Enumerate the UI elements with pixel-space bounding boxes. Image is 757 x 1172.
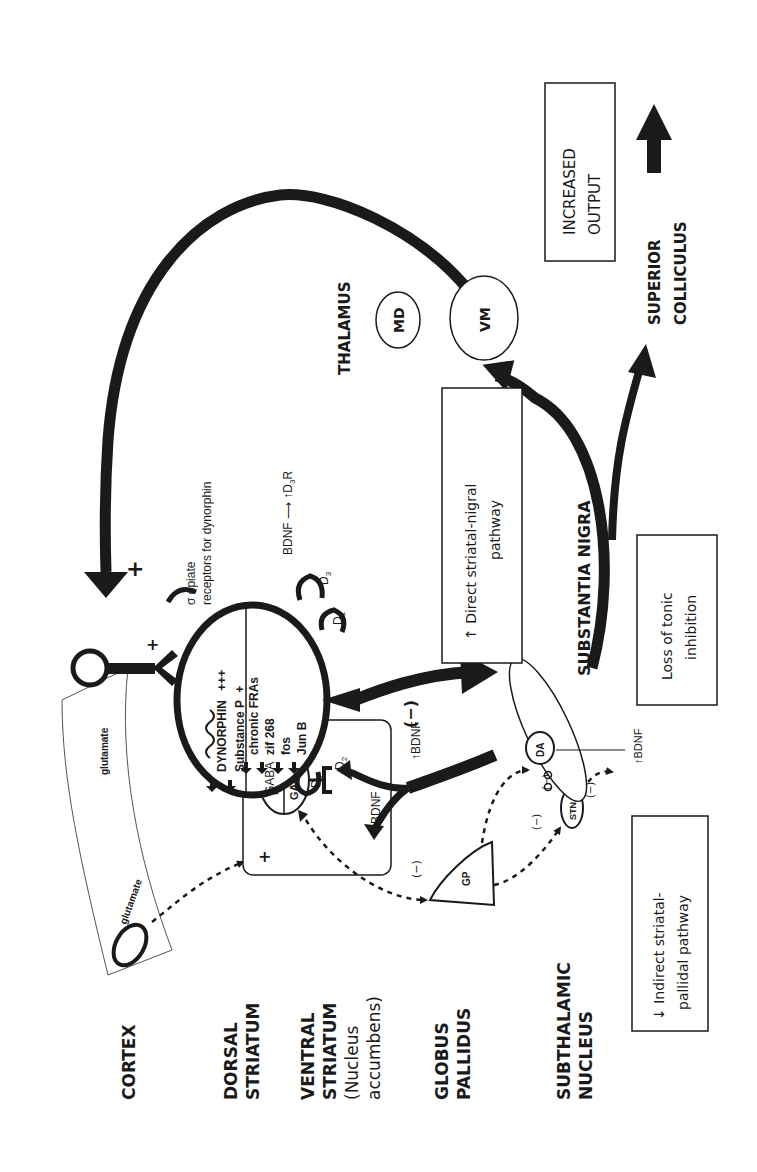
label-sc-1: SUPERIOR — [646, 239, 664, 325]
striatum-plus: + — [258, 847, 271, 866]
loop-arrowhead — [84, 572, 128, 598]
fra-fos: fos — [279, 737, 293, 755]
gp-label: GP — [461, 871, 472, 886]
direct-inhibit-label: (−) — [401, 700, 420, 728]
terminal-plus: + — [146, 635, 159, 654]
sn-bdnf-label: ↑BDNF — [632, 728, 644, 764]
sigma-label-1: σ opiate — [184, 561, 198, 605]
thalamocortical-loop: + — [84, 195, 470, 598]
box-direct-pathway: ↑ Direct striatal-nigral pathway — [442, 388, 522, 663]
substance-p-label: Substance P + — [233, 686, 247, 772]
svg-text:inhibition: inhibition — [683, 595, 699, 660]
bdnf-d3r-label: BDNF ⟶ ↑D3R — [281, 471, 297, 555]
loop-plus: + — [126, 556, 144, 581]
label-dorsal-striatum-2: STRIATUM — [243, 1003, 263, 1100]
gp-inhibit: (−) — [410, 860, 423, 878]
superior-colliculus: SUPERIOR COLLICULUS — [646, 221, 690, 325]
svg-text:OUTPUT: OUTPUT — [586, 173, 604, 235]
label-subthalamic-2: NUCLEUS — [576, 1011, 596, 1100]
sigma-label-2: receptors for dynorphin — [200, 482, 214, 605]
label-ventral-striatum-3: (Nucleus — [342, 1026, 362, 1100]
gp-to-sn-dotted — [482, 770, 528, 843]
label-subthalamic-1: SUBTHALAMIC — [554, 962, 574, 1100]
region-labels: CORTEX DORSAL STRIATUM VENTRAL STRIATUM … — [119, 962, 596, 1100]
label-sc-2: COLLICULUS — [672, 221, 690, 325]
svg-text:Loss of tonic: Loss of tonic — [659, 592, 675, 680]
label-globus-pallidus-1: GLOBUS — [432, 1022, 452, 1100]
md-label: MD — [391, 307, 407, 333]
stn-inhibit-1: (−) — [531, 814, 542, 830]
svg-text:INCREASED: INCREASED — [561, 148, 579, 235]
gp-to-stn-dotted — [494, 828, 560, 885]
d1-upper-label: D1 — [331, 611, 347, 625]
label-ventral-striatum-2: STRIATUM — [320, 1003, 340, 1100]
label-ventral-striatum-1: VENTRAL — [298, 1012, 318, 1100]
da-label: DA — [535, 743, 546, 757]
box-loss-of-tonic-inhibition: Loss of tonic inhibition — [637, 535, 717, 705]
basal-ganglia-diagram: CORTEX DORSAL STRIATUM VENTRAL STRIATUM … — [0, 0, 757, 1172]
label-thalamus: THALAMUS — [336, 282, 354, 375]
glutamate-label-2: glutamate — [99, 727, 110, 775]
increased-output-arrow-icon — [636, 104, 672, 173]
svg-text:↓ Indirect striatal-: ↓ Indirect striatal- — [651, 892, 667, 1020]
dynorphin-label: DYNORPHIN +++ — [215, 670, 229, 772]
box-increased-output: INCREASED OUTPUT — [545, 83, 615, 261]
svg-text:pallidal pathway: pallidal pathway — [675, 895, 691, 1010]
label-ventral-striatum-4: accumbens) — [364, 996, 384, 1100]
label-cortex: CORTEX — [119, 1024, 139, 1100]
label-globus-pallidus-2: PALLIDUS — [454, 1008, 474, 1100]
glutamate-label-1: glutamate — [118, 877, 145, 926]
svg-text:pathway: pathway — [487, 500, 503, 560]
thalamus: THALAMUS MD VM — [336, 276, 518, 375]
d3-label: D3 — [317, 571, 333, 585]
fra-chronic: chronic FRAs — [247, 677, 261, 755]
label-dorsal-striatum-1: DORSAL — [221, 1022, 241, 1100]
fra-zif268: zif 268 — [263, 718, 277, 755]
vm-label: VM — [477, 307, 493, 332]
stn-label: STN — [568, 802, 578, 820]
box-indirect-pathway: ↓ Indirect striatal- pallidal pathway — [632, 816, 708, 1031]
cortex-to-striatum-dotted — [152, 862, 243, 922]
postsynaptic-y-receptor — [153, 650, 178, 686]
gaba-label: GABA — [263, 762, 277, 795]
subthalamic-nucleus: STN (−) (−) (−) — [482, 770, 612, 885]
fra-junb: Jun B — [295, 721, 309, 755]
cortical-terminal-bouton — [73, 651, 107, 685]
cortex-neuron-soma — [107, 919, 153, 971]
svg-text:↑ Direct striatal-nigral: ↑ Direct striatal-nigral — [463, 484, 479, 640]
